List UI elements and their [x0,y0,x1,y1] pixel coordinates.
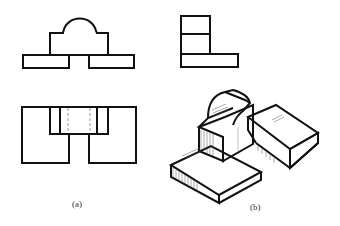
drawing-canvas [0,0,340,226]
isometric-view [171,90,318,203]
iso-hatching [173,104,284,191]
front-right-base [89,55,134,68]
front-view [23,19,134,68]
top-center-block [50,107,108,134]
side-base [181,54,238,67]
top-view [22,107,136,163]
front-center-block [50,19,108,55]
caption-a: (a) [72,199,82,209]
iso-right-slab [248,105,318,168]
iso-left-slab [171,146,261,203]
caption-b: (b) [250,202,261,212]
front-left-base [23,55,69,68]
side-view [181,16,238,67]
side-top-box [181,16,210,34]
side-middle-box [181,34,210,54]
